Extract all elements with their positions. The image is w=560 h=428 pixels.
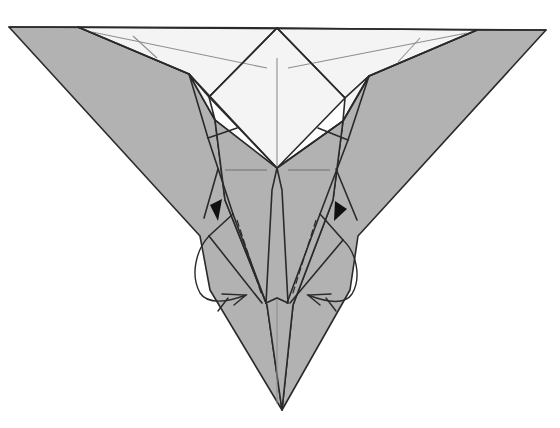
origami-diagram: [0, 0, 560, 428]
